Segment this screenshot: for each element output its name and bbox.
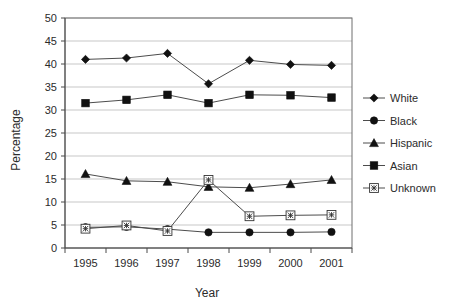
marker-crossed-square [163,227,172,236]
marker-square [205,99,213,107]
y-tick-label: 45 [45,35,57,47]
x-tick-label: 1995 [73,257,97,269]
marker-square [370,162,378,170]
x-tick-label: 1998 [196,257,220,269]
x-tick-label: 1997 [155,257,179,269]
x-tick-marks [65,248,352,253]
legend-item-unknown[interactable]: Unknown [363,182,436,194]
marker-diamond [370,94,378,102]
legend-item-white[interactable]: White [363,92,418,104]
marker-crossed-square [327,210,336,219]
x-tick-labels: 1995199619971998199920002001 [73,257,343,269]
y-tick-label: 0 [51,242,57,254]
legend-label: White [390,92,418,104]
chart-container: 05101520253035404550 1995199619971998199… [0,0,458,303]
legend-label: Black [390,115,417,127]
y-tick-label: 15 [45,173,57,185]
series-asian [82,91,336,107]
marker-square [164,91,172,99]
marker-crossed-square [245,212,254,221]
marker-circle [205,229,212,236]
x-tick-label: 1996 [114,257,138,269]
marker-triangle [327,176,336,184]
marker-triangle [81,170,90,178]
marker-square [287,91,295,99]
y-tick-label: 25 [45,127,57,139]
series-white [81,49,335,88]
x-tick-label: 2001 [319,257,343,269]
y-tick-labels: 05101520253035404550 [45,12,57,254]
legend-item-black[interactable]: Black [363,115,417,127]
marker-diamond [286,60,294,68]
y-tick-label: 35 [45,81,57,93]
marker-circle [287,229,294,236]
gridlines [65,18,352,225]
x-tick-label: 1999 [237,257,261,269]
marker-diamond [163,49,171,57]
series-unknown [81,176,336,236]
marker-crossed-square [122,221,131,230]
legend-label: Unknown [390,182,436,194]
x-tick-label: 2000 [278,257,302,269]
y-axis-title: Percentage [9,109,23,171]
y-tick-label: 10 [45,196,57,208]
y-tick-label: 5 [51,219,57,231]
y-tick-marks [61,18,65,248]
marker-diamond [245,56,253,64]
marker-crossed-square [204,176,213,185]
marker-crossed-square [81,224,90,233]
marker-square [82,99,90,107]
marker-square [123,96,131,104]
marker-diamond [81,55,89,63]
marker-diamond [122,54,130,62]
x-axis-title: Year [195,286,219,300]
marker-circle [328,228,335,235]
marker-circle [246,229,253,236]
marker-circle [370,117,377,124]
marker-square [328,94,336,102]
y-tick-label: 40 [45,58,57,70]
legend-label: Hispanic [390,137,433,149]
legend-label: Asian [390,160,418,172]
line-chart: 05101520253035404550 1995199619971998199… [0,0,458,303]
y-tick-label: 20 [45,150,57,162]
marker-diamond [327,61,335,69]
legend-item-hispanic[interactable]: Hispanic [363,137,433,149]
y-tick-label: 30 [45,104,57,116]
marker-square [246,91,254,99]
chart-legend: WhiteBlackHispanicAsianUnknown [363,92,436,194]
marker-crossed-square [286,211,295,220]
legend-item-asian[interactable]: Asian [363,160,418,172]
marker-crossed-square [370,184,379,193]
y-tick-label: 50 [45,12,57,24]
data-series-layer [81,49,336,236]
